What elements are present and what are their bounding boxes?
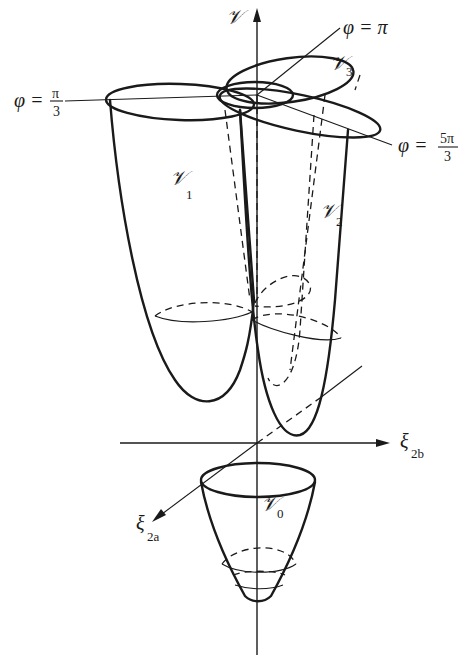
label-phi-pi: φ = π xyxy=(343,16,389,39)
svg-text:φ =: φ = xyxy=(14,89,44,112)
svg-text:0: 0 xyxy=(277,506,284,521)
svg-text:φ = π: φ = π xyxy=(343,16,389,39)
svg-text:ξ: ξ xyxy=(136,512,145,534)
svg-text:1: 1 xyxy=(186,187,193,202)
svg-text:3: 3 xyxy=(53,104,60,119)
label-v2: 𝒱 2 xyxy=(320,200,343,229)
label-vertical-axis: 𝒱 xyxy=(226,6,249,28)
arrowhead-icon xyxy=(253,8,261,22)
svg-text:π: π xyxy=(52,86,59,101)
svg-text:3: 3 xyxy=(346,64,353,79)
xi-2b-axis xyxy=(120,439,390,447)
surface-v0 xyxy=(201,463,315,601)
svg-text:2: 2 xyxy=(336,214,343,229)
svg-text:ξ: ξ xyxy=(400,430,409,452)
svg-text:2a: 2a xyxy=(147,529,160,544)
surface-v2 xyxy=(216,78,384,435)
svg-text:φ =: φ = xyxy=(398,134,428,157)
label-v3: 𝒱 3 xyxy=(330,52,353,79)
label-v0: 𝒱 0 xyxy=(261,493,284,521)
label-v1: 𝒱 1 xyxy=(170,167,193,202)
svg-text:𝒱: 𝒱 xyxy=(226,6,249,28)
svg-text:𝒱: 𝒱 xyxy=(170,167,193,189)
label-phi-5pi-over-3: φ = 5π 3 xyxy=(398,131,458,164)
svg-text:3: 3 xyxy=(444,149,451,164)
label-xi-2b: ξ 2b xyxy=(400,430,424,461)
arrowhead-icon xyxy=(152,509,166,522)
potential-surface-diagram: 𝒱 φ = π 𝒱 3 φ = π 3 φ = 5π 3 𝒱 1 𝒱 2 ξ 2… xyxy=(0,0,469,661)
svg-text:2b: 2b xyxy=(411,446,424,461)
surface-v1 xyxy=(105,81,254,401)
svg-text:5π: 5π xyxy=(440,131,454,146)
label-phi-pi-over-3: φ = π 3 xyxy=(14,86,63,119)
arrowhead-icon xyxy=(376,439,390,447)
